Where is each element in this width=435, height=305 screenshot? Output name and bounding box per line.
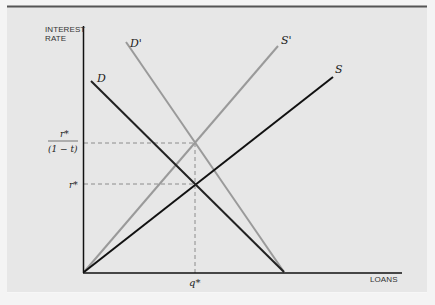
curve-label-s: S	[335, 63, 343, 76]
curve-label-d-prime: D'	[129, 37, 142, 50]
curve-label-d: D	[96, 72, 106, 85]
diagram-panel: INTEREST RATE LOANS D D' S' S r* (1 − t)…	[0, 0, 435, 305]
tick-upper-denominator: (1 − t)	[48, 144, 78, 154]
loan-market-diagram: INTEREST RATE LOANS D D' S' S r* (1 − t)…	[0, 0, 435, 305]
y-axis-label-line1: INTEREST	[45, 25, 85, 34]
tick-lower-rate: r*	[69, 180, 78, 190]
tick-upper-numerator: r*	[60, 129, 69, 139]
tick-quantity: q*	[189, 277, 200, 288]
curve-label-s-prime: S'	[281, 34, 292, 47]
x-axis-label: LOANS	[370, 275, 398, 284]
y-axis-label-line2: RATE	[45, 34, 66, 43]
